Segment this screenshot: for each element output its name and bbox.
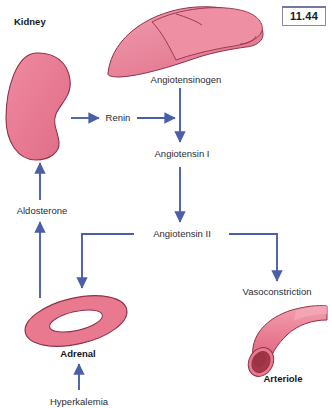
kidney-illustration bbox=[6, 53, 70, 160]
label-vasoconstriction: Vasoconstriction bbox=[243, 286, 312, 297]
arteriole-illustration bbox=[243, 306, 327, 381]
label-angiotensinogen: Angiotensinogen bbox=[151, 74, 222, 85]
label-arteriole: Arteriole bbox=[263, 373, 302, 384]
figure-raas-diagram: Kidney Angiotensinogen Renin Angiotensin… bbox=[0, 0, 332, 408]
label-kidney: Kidney bbox=[14, 16, 46, 27]
arrow-angiotensin-ii-to-vasoconstriction bbox=[229, 234, 277, 281]
figure-number-badge: 11.44 bbox=[282, 6, 326, 26]
label-renin: Renin bbox=[106, 112, 131, 123]
label-hyperkalemia: Hyperkalemia bbox=[50, 396, 108, 407]
label-aldosterone: Aldosterone bbox=[17, 205, 68, 216]
label-angiotensin-i: Angiotensin I bbox=[155, 148, 210, 159]
arrow-angiotensin-ii-to-adrenal bbox=[82, 234, 134, 288]
diagram-canvas bbox=[0, 0, 332, 408]
label-angiotensin-ii: Angiotensin II bbox=[153, 228, 211, 239]
adrenal-illustration bbox=[20, 287, 132, 355]
liver-illustration bbox=[108, 7, 263, 77]
label-adrenal: Adrenal bbox=[60, 348, 95, 359]
